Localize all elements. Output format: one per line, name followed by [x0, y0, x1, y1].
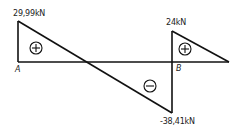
minus-icon	[144, 80, 156, 92]
min-label: -38,41kN	[160, 117, 195, 126]
plus-icon-right	[179, 43, 191, 55]
point-b-label: B	[176, 64, 182, 73]
point-a-label: A	[15, 65, 20, 74]
plus-icon-left	[30, 42, 42, 54]
shear-diagram-svg	[0, 0, 236, 136]
right-max-label: 24kN	[166, 18, 186, 27]
left-max-label: 29,99kN	[13, 9, 45, 18]
sloped-line	[18, 21, 172, 113]
right-slope	[172, 31, 229, 62]
